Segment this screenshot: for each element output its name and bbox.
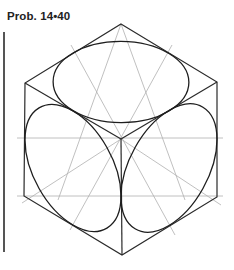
isometric-cube-figure [0, 0, 234, 270]
top-face-ellipse [25, 25, 217, 140]
cube-outline [24, 24, 217, 255]
right-face-ellipse [121, 82, 217, 254]
left-face-ellipse [25, 83, 121, 253]
